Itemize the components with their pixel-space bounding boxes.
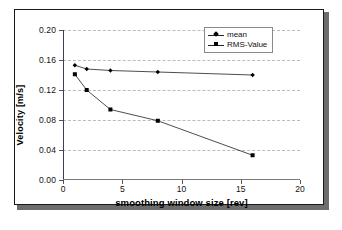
data-point-marker	[156, 119, 160, 123]
legend-key-diamond-icon	[208, 31, 224, 39]
x-tick-label: 10	[177, 184, 186, 194]
data-point-marker	[85, 88, 89, 92]
legend-item-rms-value: RMS-Value	[208, 40, 267, 50]
y-axis-title: Velocity [m/s]	[15, 85, 25, 146]
data-point-marker	[251, 153, 255, 157]
data-point-marker	[108, 68, 112, 72]
chart-figure: Velocity [m/s] 0.000.040.080.120.160.20 …	[0, 0, 342, 230]
data-point-marker	[85, 67, 89, 71]
legend-item-mean: mean	[208, 30, 267, 40]
y-tick-label: 0.12	[39, 85, 56, 95]
y-tick-label: 0.08	[39, 115, 56, 125]
x-tick-label: 15	[236, 184, 245, 194]
series-line-mean	[75, 65, 253, 75]
x-tick-label: 5	[120, 184, 125, 194]
data-point-marker	[156, 70, 160, 74]
data-point-marker	[73, 63, 77, 67]
x-tick-label: 20	[295, 184, 304, 194]
y-tick-label: 0.00	[39, 175, 56, 185]
y-tick-label: 0.16	[39, 55, 56, 65]
y-tick-label: 0.04	[39, 145, 56, 155]
data-point-marker	[108, 108, 112, 112]
y-tick-label: 0.20	[39, 25, 56, 35]
legend-label-rms-value: RMS-Value	[227, 41, 267, 49]
data-point-marker	[250, 73, 254, 77]
chart-legend: mean RMS-Value	[204, 27, 273, 53]
series-line-rms-value	[75, 74, 253, 155]
x-axis-title: smoothing window size [rev]	[63, 197, 300, 208]
legend-key-square-icon	[208, 41, 224, 49]
data-point-marker	[73, 72, 77, 76]
x-tick-label: 0	[61, 184, 66, 194]
legend-label-mean: mean	[227, 31, 247, 39]
